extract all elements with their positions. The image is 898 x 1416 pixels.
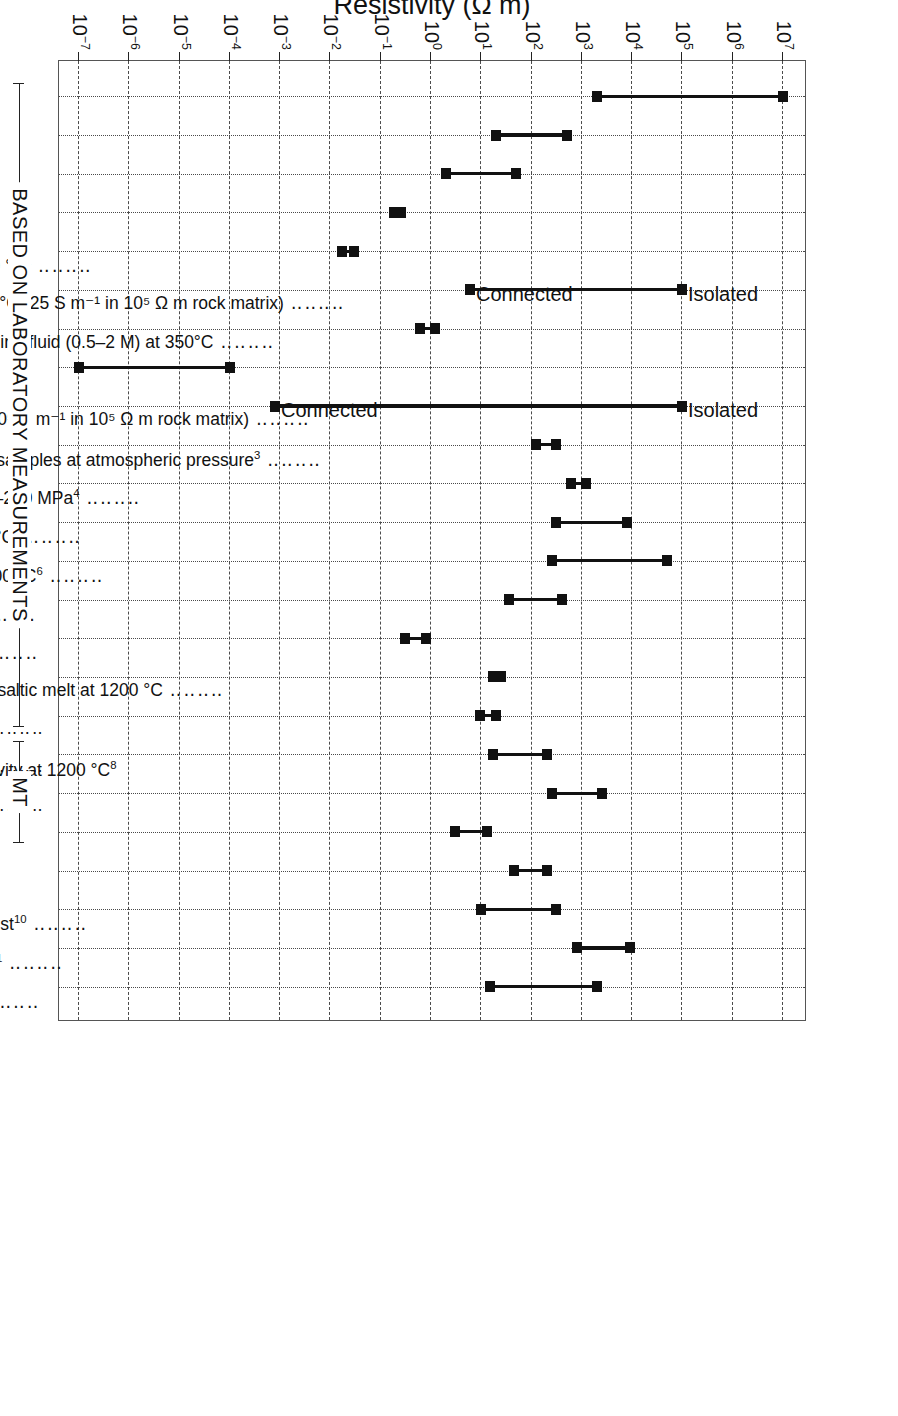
range-max-marker — [592, 981, 602, 992]
range-max-marker — [430, 323, 440, 334]
range-max-marker — [662, 555, 672, 566]
category-gridline — [59, 561, 805, 562]
range-min-marker — [337, 246, 347, 257]
range-min-marker — [488, 749, 498, 760]
range-min-marker — [488, 671, 498, 682]
range-bar — [552, 559, 668, 562]
value-axis-tick-label: 100 — [420, 0, 444, 50]
range-max-marker — [557, 594, 567, 605]
value-axis-tick — [179, 52, 180, 61]
value-axis-tick-label: 102 — [521, 0, 545, 50]
category-gridline — [59, 638, 805, 639]
value-axis-tick — [681, 52, 682, 61]
category-gridline — [59, 832, 805, 833]
value-axis-tick — [380, 52, 381, 61]
range-min-marker — [441, 168, 451, 179]
value-axis-tick-label: 106 — [722, 0, 746, 50]
range-max-marker — [625, 942, 635, 953]
value-gridline — [782, 61, 783, 1020]
value-axis-tick-label: 104 — [621, 0, 645, 50]
range-max-marker — [421, 633, 431, 644]
range-min-marker — [450, 826, 460, 837]
value-axis-tick-label: 107 — [772, 0, 796, 50]
range-bar — [552, 792, 602, 795]
range-bar — [446, 172, 516, 175]
value-axis-tick — [581, 52, 582, 61]
category-gridline — [59, 483, 805, 484]
range-min-marker — [400, 633, 410, 644]
data-annotation: Isolated — [688, 283, 758, 306]
range-max-marker — [542, 749, 552, 760]
range-min-marker — [389, 207, 399, 218]
category-gridline — [59, 212, 805, 213]
category-gridline — [59, 135, 805, 136]
range-min-marker — [476, 904, 486, 915]
value-axis-tick-label: 10−2 — [320, 0, 344, 50]
value-axis-tick — [732, 52, 733, 61]
category-gridline — [59, 251, 805, 252]
value-axis-tick-label: 103 — [571, 0, 595, 50]
value-gridline — [732, 61, 733, 1020]
value-axis-tick — [480, 52, 481, 61]
category-gridline — [59, 677, 805, 678]
value-axis-tick — [631, 52, 632, 61]
range-min-marker — [592, 91, 602, 102]
axis-group-bracket: MT — [19, 741, 20, 842]
category-gridline — [59, 522, 805, 523]
category-gridline — [59, 174, 805, 175]
range-min-marker — [572, 942, 582, 953]
category-label: 1 vol.% saline fluid at 350 °C (25 S m⁻¹… — [0, 295, 345, 313]
value-axis-tick — [531, 52, 532, 61]
range-max-marker — [597, 788, 607, 799]
range-bar — [597, 95, 783, 98]
value-gridline — [480, 61, 481, 1020]
range-max-marker — [225, 362, 235, 373]
range-max-marker — [551, 439, 561, 450]
range-max-marker — [349, 246, 359, 257]
range-min-marker — [491, 130, 501, 141]
value-gridline — [681, 61, 682, 1020]
category-gridline — [59, 445, 805, 446]
range-min-marker — [547, 788, 557, 799]
value-gridline — [279, 61, 280, 1020]
range-min-marker — [547, 555, 557, 566]
range-max-marker — [562, 130, 572, 141]
range-bar — [490, 985, 597, 988]
value-axis-tick-label: 10−3 — [269, 0, 293, 50]
range-max-marker — [511, 168, 521, 179]
category-gridline — [59, 600, 805, 601]
range-min-marker — [415, 323, 425, 334]
range-min-marker — [74, 362, 84, 373]
range-min-marker — [566, 478, 576, 489]
data-annotation: Isolated — [688, 399, 758, 422]
category-label: NaCl-saturated KTB core samples at atmos… — [0, 450, 322, 469]
value-gridline — [631, 61, 632, 1020]
range-bar — [509, 598, 562, 601]
range-max-marker — [677, 401, 687, 412]
range-max-marker — [542, 865, 552, 876]
value-axis-tick — [782, 52, 783, 61]
range-bar — [496, 133, 566, 136]
range-max-marker — [551, 904, 561, 915]
range-min-marker — [485, 981, 495, 992]
category-gridline — [59, 909, 805, 910]
value-gridline — [380, 61, 381, 1020]
value-axis-tick-label: 10−1 — [370, 0, 394, 50]
range-min-marker — [509, 865, 519, 876]
value-axis-tick-label: 10−5 — [169, 0, 193, 50]
value-axis-tick — [329, 52, 330, 61]
category-gridline — [59, 871, 805, 872]
range-min-marker — [531, 439, 541, 450]
category-gridline — [59, 793, 805, 794]
value-axis-tick-label: 10−6 — [118, 0, 142, 50]
axis-group-bracket: BASED ON LABORATORY MEASUREMENTS — [19, 83, 20, 726]
data-annotation: Connected — [476, 283, 573, 306]
category-gridline — [59, 716, 805, 717]
category-gridline — [59, 754, 805, 755]
range-bar — [481, 908, 555, 911]
value-gridline — [179, 61, 180, 1020]
range-min-marker — [475, 710, 485, 721]
range-bar — [79, 366, 230, 369]
value-axis-tick-label: 10−7 — [68, 0, 92, 50]
range-max-marker — [581, 478, 591, 489]
